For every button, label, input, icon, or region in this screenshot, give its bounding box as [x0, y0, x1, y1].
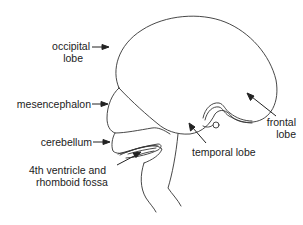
cerebellum-outline: [112, 133, 158, 153]
brainstem-back: [141, 163, 156, 212]
label-temporal-lobe: temporal lobe: [192, 146, 256, 158]
fourth-ventricle-line1: 4th ventricle and: [29, 164, 108, 176]
cerebral-hemisphere-outline: [116, 16, 277, 134]
label-mesencephalon: mesencephalon: [6, 98, 91, 110]
occipital-lobe-line2: lobe: [46, 52, 90, 64]
cerebellum-line1: cerebellum: [30, 136, 92, 148]
stalk: [203, 125, 213, 127]
temporal-lobe-line1: temporal lobe: [192, 146, 256, 158]
occipital-lobe-line1: occipital: [46, 40, 90, 52]
frontal-lobe-line1: frontal: [256, 116, 296, 128]
mesencephalon-outline: [107, 88, 170, 134]
label-fourth-ventricle: 4th ventricle and rhomboid fossa: [29, 164, 108, 188]
brain-drawing: [0, 0, 303, 225]
small-circle-structure: [213, 122, 219, 128]
fourth-ventricle-line2: rhomboid fossa: [29, 176, 108, 188]
label-occipital-lobe: occipital lobe: [46, 40, 90, 64]
frontal-lobe-line2: lobe: [256, 128, 296, 140]
brain-diagram: occipital lobe mesencephalon cerebellum …: [0, 0, 303, 225]
brainstem-front: [168, 134, 181, 206]
label-frontal-lobe: frontal lobe: [256, 116, 296, 140]
mesencephalon-line1: mesencephalon: [6, 98, 91, 110]
label-cerebellum: cerebellum: [30, 136, 92, 148]
